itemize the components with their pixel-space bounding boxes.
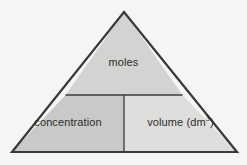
formula-triangle-diagram [0, 0, 247, 165]
volume-label-suffix: ) [210, 116, 214, 128]
top-cell-label: moles [0, 57, 247, 68]
bottom-right-cell-label: volume (dm3) [124, 117, 237, 128]
bottom-left-cell-label: concentration [12, 117, 124, 128]
volume-label-prefix: volume (dm [147, 116, 205, 128]
diagram-canvas: moles concentration volume (dm3) [0, 0, 247, 165]
top-cell-fill [66, 12, 183, 95]
